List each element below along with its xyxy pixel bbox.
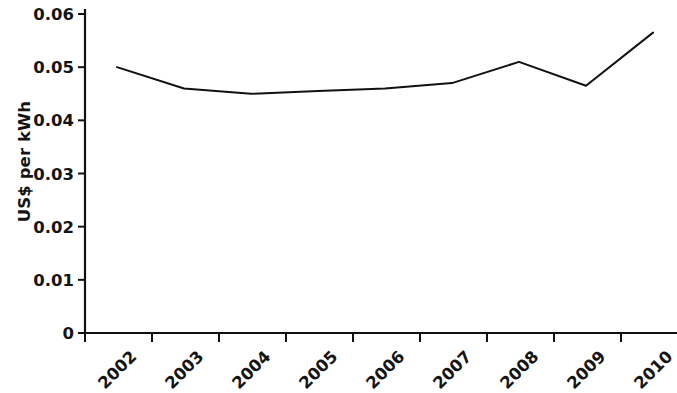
data-series-line [117,33,653,94]
x-axis-ticks [85,333,621,342]
axis-lines [85,10,677,333]
